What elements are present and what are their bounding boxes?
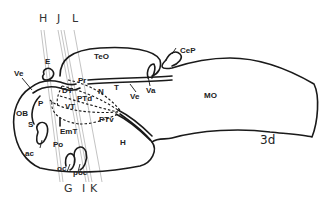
region-label-emt: EmT bbox=[60, 128, 77, 136]
brain-outline-drawing bbox=[0, 0, 326, 202]
region-label-h: H bbox=[120, 139, 126, 147]
region-label-t: T bbox=[114, 84, 119, 92]
region-label-va: Va bbox=[146, 87, 155, 95]
section-label-g: G bbox=[64, 183, 73, 194]
section-label-h: H bbox=[39, 13, 47, 24]
region-label-n: N bbox=[98, 88, 104, 96]
region-label-pr: Pr bbox=[78, 77, 86, 85]
region-label-vt: VT bbox=[65, 103, 75, 111]
section-label-l: L bbox=[72, 13, 78, 24]
region-label-ptd: PTd bbox=[77, 95, 92, 103]
region-label-ve-left: Ve bbox=[14, 70, 23, 78]
region-label-ve-mid: Ve bbox=[130, 93, 139, 101]
region-label-dt: DT bbox=[62, 87, 73, 95]
section-label-j: J bbox=[57, 13, 60, 24]
region-label-poc: poc bbox=[73, 169, 87, 177]
region-label-ptv: PTv bbox=[99, 116, 114, 124]
region-label-cep: CeP bbox=[180, 47, 196, 55]
region-label-ac: ac bbox=[25, 150, 34, 158]
region-label-po: Po bbox=[53, 141, 63, 149]
region-label-teo: TeO bbox=[94, 53, 109, 61]
region-label-p: P bbox=[38, 100, 43, 108]
region-label-s: S bbox=[28, 121, 33, 129]
region-label-mo: MO bbox=[204, 92, 217, 100]
section-label-k: K bbox=[90, 183, 97, 194]
region-label-e: E bbox=[45, 58, 50, 66]
region-label-ob: OB bbox=[16, 110, 28, 118]
region-label-oc: oc bbox=[57, 165, 66, 173]
panel-label: 3d bbox=[260, 134, 275, 146]
section-label-i: I bbox=[82, 183, 85, 194]
brain-schematic-figure: H J L G I K TeO CeP MO E Ve Ve Va T Pr D… bbox=[0, 0, 326, 202]
